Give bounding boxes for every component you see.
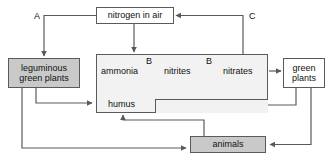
- step-label-b-first: B: [146, 56, 152, 66]
- edge-nitrogen-to-leguminous: [44, 16, 96, 57]
- node-green-plants: green plants: [283, 58, 325, 88]
- edge-leguminous-to-humus: [36, 88, 92, 103]
- step-label-b-second: B: [206, 56, 212, 66]
- node-nitrates: nitrates: [223, 66, 253, 76]
- soil-compartment-bottom-edge: [96, 112, 156, 113]
- node-nitrites: nitrites: [164, 66, 191, 76]
- node-ammonia: ammonia: [101, 66, 138, 76]
- corner-label-c: C: [249, 11, 256, 21]
- edge-nitrates-to-nitrogen: [176, 16, 243, 55]
- nitrogen-cycle-diagram: nitrogen in air leguminous green plants …: [0, 0, 333, 167]
- edge-animals-to-humus: [123, 115, 204, 136]
- edge-green-plants-to-animals: [270, 88, 311, 145]
- node-leguminous-green-plants: leguminous green plants: [8, 58, 80, 88]
- soil-compartment-mid-edge: [155, 99, 268, 100]
- node-humus: humus: [108, 99, 135, 109]
- node-animals: animals: [190, 136, 266, 153]
- soil-compartment-notch-edge: [155, 99, 156, 113]
- corner-label-a: A: [34, 11, 40, 21]
- node-nitrogen-in-air: nitrogen in air: [96, 7, 174, 24]
- soil-compartment-right-edge: [267, 54, 268, 100]
